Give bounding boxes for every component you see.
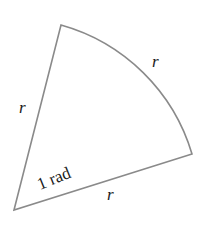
arc-length-label: r (152, 52, 159, 71)
angle-label: 1 rad (34, 163, 74, 194)
radian-sector-diagram: r r r 1 rad (0, 0, 212, 229)
bottom-radius-label: r (107, 185, 114, 204)
left-radius-label: r (19, 98, 26, 117)
